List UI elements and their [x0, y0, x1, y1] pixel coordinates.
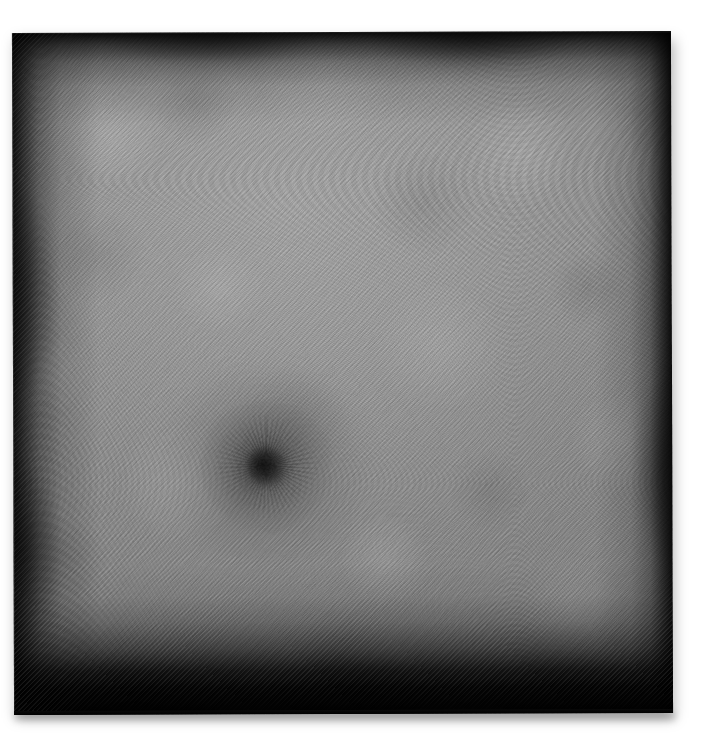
artwork-panel-edge-highlight: [12, 31, 673, 715]
artwork-viewport: Untitled (Gray) monochrome gray painted …: [0, 0, 704, 741]
artwork-panel[interactable]: Untitled (Gray) monochrome gray painted …: [12, 31, 673, 715]
